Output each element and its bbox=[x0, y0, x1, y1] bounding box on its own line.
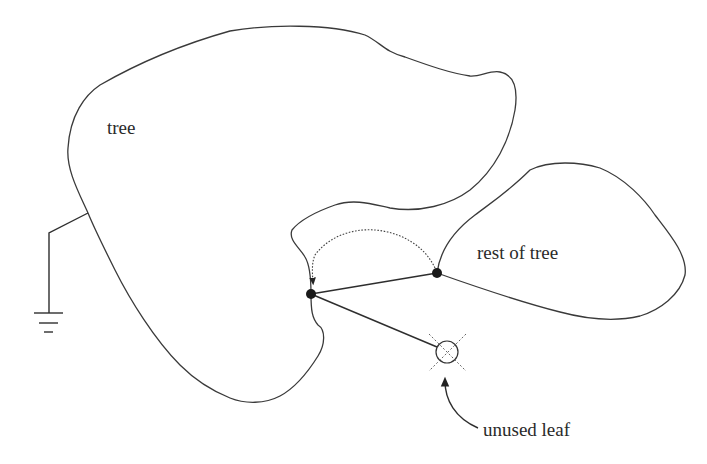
rest-of-tree-label: rest of tree bbox=[477, 242, 558, 263]
edge-attach-to-rest bbox=[311, 273, 437, 294]
ground-wire bbox=[49, 213, 88, 313]
unused-leaf-icon bbox=[429, 334, 466, 371]
edge-attach-to-leaf bbox=[311, 294, 437, 347]
attach-node bbox=[306, 289, 316, 299]
move-arrow bbox=[312, 230, 435, 282]
diagram-canvas: tree rest of tree unused leaf bbox=[0, 0, 707, 464]
tree-blob bbox=[68, 26, 516, 402]
rest-root-node bbox=[432, 268, 442, 278]
tree-label: tree bbox=[107, 117, 135, 138]
unused-leaf-label: unused leaf bbox=[483, 419, 571, 440]
leaf-pointer-arrow bbox=[445, 381, 478, 428]
